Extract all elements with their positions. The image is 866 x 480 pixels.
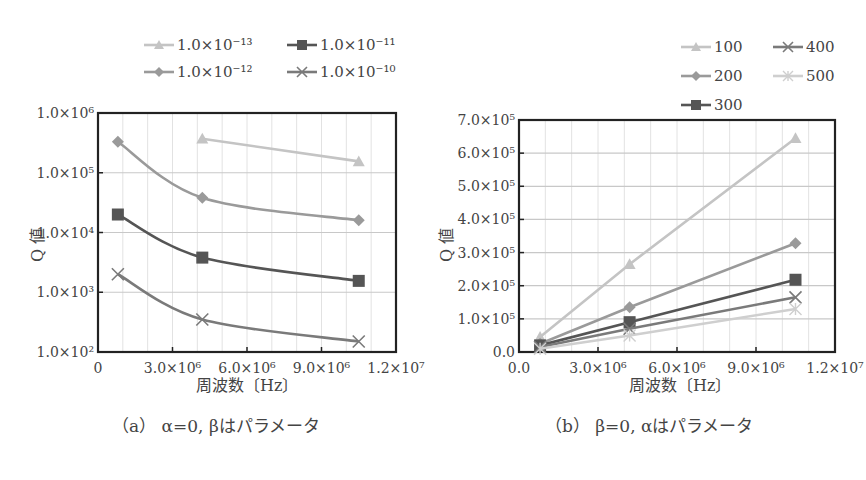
triangle-marker-icon <box>790 132 802 143</box>
x-tick-label: 9.0×10⁶ <box>293 360 351 376</box>
chart-a-y-axis-label: Q 値 <box>24 228 48 262</box>
y-tick-label: 1.0×10³ <box>37 284 94 300</box>
diamond-marker-icon <box>353 214 365 226</box>
legend-item: 1.0×10⁻¹⁰ <box>287 63 395 81</box>
series-200 <box>534 237 801 349</box>
y-tick-label: 2.0×10⁵ <box>458 278 516 294</box>
y-tick-label: 0.0 <box>493 344 515 360</box>
series-1.0×10⁻¹¹ <box>112 209 365 287</box>
chart-b-plot: 0.01.0×10⁵2.0×10⁵3.0×10⁵4.0×10⁵5.0×10⁵6.… <box>433 0 866 480</box>
legend-label: 500 <box>806 67 835 85</box>
legend-item: 300 <box>681 96 743 114</box>
y-tick-label: 4.0×10⁵ <box>458 211 516 227</box>
diamond-marker-icon <box>790 237 802 249</box>
chart-a-x-axis-label: 周波数〔Hz〕 <box>196 372 298 396</box>
legend-item: 1.0×10⁻¹³ <box>144 36 252 54</box>
series-1.0×10⁻¹³ <box>196 133 364 166</box>
chart-b-y-axis-label: Q 値 <box>433 228 457 262</box>
square-marker-icon <box>112 209 124 221</box>
square-marker-icon <box>790 274 802 286</box>
square-marker-icon <box>297 40 307 50</box>
legend-item: 500 <box>773 67 835 85</box>
diamond-marker-icon <box>691 71 701 81</box>
square-marker-icon <box>624 316 636 328</box>
series-100 <box>534 132 801 342</box>
legend-item: 100 <box>681 38 743 56</box>
legend-label: 200 <box>714 67 743 85</box>
square-marker-icon <box>691 100 701 110</box>
x-tick-label: 3.0×10⁶ <box>569 360 627 376</box>
chart-a-caption: （a） α=0, βはパラメータ <box>112 412 320 437</box>
chart-panel-b: 0.01.0×10⁵2.0×10⁵3.0×10⁵4.0×10⁵5.0×10⁵6.… <box>433 0 866 480</box>
x-tick-label: 0 <box>94 360 103 376</box>
y-tick-label: 1.0×10² <box>37 344 94 360</box>
chart-b-caption: （b） β=0, αはパラメータ <box>545 412 753 437</box>
legend-item: 1.0×10⁻¹¹ <box>287 36 395 54</box>
diamond-marker-icon <box>624 301 636 313</box>
y-tick-label: 1.0×10⁶ <box>37 105 95 121</box>
legend-label: 1.0×10⁻¹¹ <box>320 36 395 54</box>
x-tick-label: 3.0×10⁶ <box>144 360 202 376</box>
grid <box>98 113 396 352</box>
series-1.0×10⁻¹² <box>112 136 365 227</box>
square-marker-icon <box>353 275 365 287</box>
x-marker-icon <box>112 268 124 280</box>
y-tick-label: 6.0×10⁵ <box>458 145 516 161</box>
legend-item: 400 <box>773 38 835 56</box>
x-tick-label: 1.2×10⁷ <box>367 360 425 376</box>
legend-label: 1.0×10⁻¹³ <box>177 36 252 54</box>
y-tick-label: 7.0×10⁵ <box>458 112 516 128</box>
chart-a-plot: 1.0×10²1.0×10³1.0×10⁴1.0×10⁵1.0×10⁶03.0×… <box>0 0 433 480</box>
y-tick-label: 3.0×10⁵ <box>458 245 516 261</box>
series-1.0×10⁻¹⁰ <box>112 268 365 347</box>
legend-item: 200 <box>681 67 743 85</box>
legend-label: 100 <box>714 38 743 56</box>
legend-item: 1.0×10⁻¹² <box>144 63 252 81</box>
chart-panel-a: 1.0×10²1.0×10³1.0×10⁴1.0×10⁵1.0×10⁶03.0×… <box>0 0 433 480</box>
legend: 1.0×10⁻¹³1.0×10⁻¹²1.0×10⁻¹¹1.0×10⁻¹⁰ <box>144 36 395 81</box>
y-tick-label: 1.0×10⁵ <box>37 165 95 181</box>
chart-b-x-axis-label: 周波数〔Hz〕 <box>629 372 731 396</box>
legend: 100200300400500 <box>681 38 835 114</box>
legend-label: 1.0×10⁻¹⁰ <box>320 63 395 81</box>
diamond-marker-icon <box>154 67 164 77</box>
x-tick-label: 0.0 <box>508 360 530 376</box>
y-tick-label: 5.0×10⁵ <box>458 178 516 194</box>
x-tick-label: 1.2×10⁷ <box>806 360 864 376</box>
legend-label: 400 <box>806 38 835 56</box>
square-marker-icon <box>196 252 208 264</box>
x-tick-label: 9.0×10⁶ <box>727 360 785 376</box>
diamond-marker-icon <box>196 192 208 204</box>
y-tick-label: 1.0×10⁵ <box>458 311 516 327</box>
legend-label: 300 <box>714 96 743 114</box>
legend-label: 1.0×10⁻¹² <box>177 63 252 81</box>
axis-ticks: 1.0×10²1.0×10³1.0×10⁴1.0×10⁵1.0×10⁶03.0×… <box>37 105 426 376</box>
